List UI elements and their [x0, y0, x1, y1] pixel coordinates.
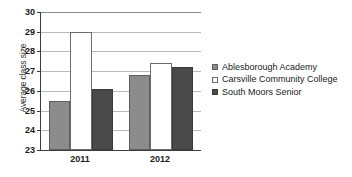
bar: [92, 89, 113, 150]
y-axis-tick-label: 24: [25, 125, 35, 135]
bar: [49, 101, 70, 150]
legend-swatch-icon: [212, 77, 218, 83]
legend-item[interactable]: Carsville Community College: [212, 74, 338, 87]
y-axis-tick-label: 29: [25, 27, 35, 37]
bar: [70, 32, 91, 150]
bar: [150, 63, 171, 150]
y-axis-tick-label: 28: [25, 46, 35, 56]
x-axis-tick-label: 2012: [150, 154, 170, 164]
bars-layer: [41, 12, 201, 150]
bar: [172, 67, 193, 150]
x-axis-tick-label: 2011: [70, 154, 90, 164]
y-axis-tick-label: 23: [25, 145, 35, 155]
legend-item-label: South Moors Senior: [222, 88, 302, 97]
y-axis-tick-label: 25: [25, 106, 35, 116]
chart-legend: Ablesborough AcademyCarsville Community …: [212, 61, 338, 99]
legend-item[interactable]: South Moors Senior: [212, 86, 338, 99]
bar: [129, 75, 150, 150]
legend-swatch-icon: [212, 89, 218, 95]
y-axis-tick-label: 26: [25, 86, 35, 96]
legend-item-label: Ablesborough Academy: [222, 63, 317, 72]
bar-chart: Average class size 2324252627282930 2011…: [0, 0, 352, 177]
plot-area: 2324252627282930: [40, 12, 201, 151]
legend-item[interactable]: Ablesborough Academy: [212, 61, 338, 74]
legend-swatch-icon: [212, 64, 218, 70]
y-axis-tick-label: 30: [25, 7, 35, 17]
y-axis-tick-label: 27: [25, 66, 35, 76]
legend-item-label: Carsville Community College: [222, 75, 338, 84]
y-axis-tick-mark: [37, 150, 41, 151]
